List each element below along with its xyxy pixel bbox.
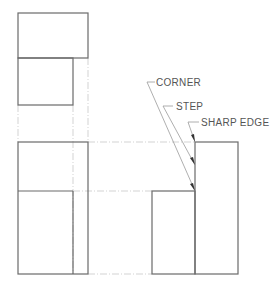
label-step: STEP — [176, 101, 203, 112]
label-sharp-edge: SHARP EDGE — [201, 117, 269, 128]
top-view — [18, 13, 88, 105]
side-view — [152, 142, 238, 274]
leader-step — [163, 106, 195, 165]
projection-lines — [18, 58, 195, 274]
orthographic-drawing: CORNER STEP SHARP EDGE — [0, 0, 279, 287]
leader-corner — [147, 82, 195, 191]
leader-sharp-edge — [188, 122, 199, 142]
front-view — [18, 142, 88, 274]
label-corner: CORNER — [156, 77, 201, 88]
